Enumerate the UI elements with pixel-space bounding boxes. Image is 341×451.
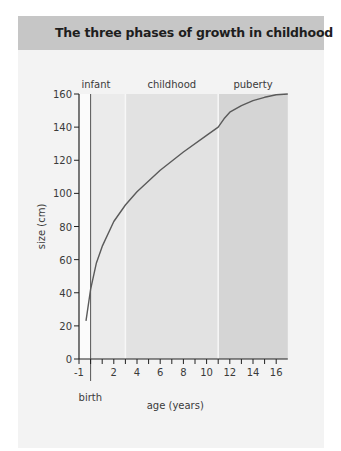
x-tick-label: 10 bbox=[200, 367, 213, 378]
x-tick-label: -1 bbox=[74, 367, 84, 378]
birth-label: birth bbox=[79, 392, 103, 403]
y-axis-label: size (cm) bbox=[36, 204, 47, 250]
y-tick-label: 20 bbox=[59, 321, 72, 332]
phase-band-puberty bbox=[218, 94, 288, 359]
y-tick-label: 100 bbox=[53, 188, 72, 199]
y-tick-label: 0 bbox=[66, 354, 72, 365]
y-tick-label: 40 bbox=[59, 288, 72, 299]
x-tick-label: 12 bbox=[223, 367, 236, 378]
x-tick-label: 2 bbox=[111, 367, 117, 378]
y-tick-label: 160 bbox=[53, 89, 72, 100]
phase-label-infant: infant bbox=[81, 79, 110, 90]
y-tick-label: 120 bbox=[53, 155, 72, 166]
phase-band-childhood bbox=[125, 94, 218, 359]
x-tick-label: 6 bbox=[157, 367, 163, 378]
y-tick-label: 80 bbox=[59, 222, 72, 233]
x-tick-label: 4 bbox=[134, 367, 140, 378]
x-tick-label: 16 bbox=[270, 367, 283, 378]
phase-band-infant bbox=[91, 94, 126, 359]
phase-label-puberty: puberty bbox=[233, 79, 272, 90]
y-tick-label: 140 bbox=[53, 122, 72, 133]
pre-birth-area bbox=[79, 94, 91, 359]
growth-chart: infantchildhoodpubertybirth0204060801001… bbox=[0, 0, 341, 451]
y-tick-label: 60 bbox=[59, 255, 72, 266]
phase-label-childhood: childhood bbox=[147, 79, 196, 90]
x-tick-label: 8 bbox=[180, 367, 186, 378]
x-tick-label: 14 bbox=[247, 367, 260, 378]
x-axis-label: age (years) bbox=[147, 400, 204, 411]
